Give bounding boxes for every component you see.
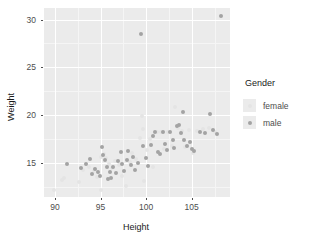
x-tick-mark [192,198,193,200]
data-point-male [133,168,137,172]
data-point-male [203,131,207,135]
grid-line-minor-horizontal [44,139,230,140]
plot-panel [44,8,230,197]
data-point-male [172,146,176,150]
x-tick-mark [146,198,147,200]
y-tick-mark [41,163,43,164]
data-point-male [114,171,118,175]
data-point-male [198,130,202,134]
data-point-male [90,172,94,176]
data-point-female [124,184,128,188]
legend-dot-icon [248,104,252,108]
y-axis-title: Weight [6,77,16,137]
scatter-plot: 15202530 9095100105 Height Weight Gender… [0,0,311,243]
data-point-female [145,148,149,152]
grid-line-minor-vertical [169,8,170,197]
data-point-female [52,188,56,192]
legend-label: female [263,101,289,111]
data-point-male [100,145,104,149]
data-point-male [129,163,133,167]
data-point-female [62,176,66,180]
data-point-male [171,138,175,142]
data-point-female [151,165,155,169]
data-point-female [120,174,124,178]
x-tick-label: 100 [139,202,153,212]
data-point-male [120,162,124,166]
data-point-male [179,131,183,135]
grid-line-major-vertical [192,8,193,197]
data-point-male [168,130,172,134]
data-point-male [139,32,143,36]
x-tick-mark [55,198,56,200]
x-tick-label: 105 [185,202,199,212]
data-point-male [98,174,102,178]
data-point-male [84,162,88,166]
legend-key-swatch [243,99,256,112]
grid-line-major-horizontal [44,115,230,116]
data-point-female [187,128,191,132]
legend-title: Gender [245,78,309,88]
grid-line-minor-horizontal [44,43,230,44]
legend-item-female[interactable]: female [243,97,309,114]
grid-line-major-vertical [146,8,147,197]
y-tick-label: 15 [0,158,36,168]
legend-items: femalemale [243,97,309,131]
data-point-female [99,188,103,192]
y-tick-mark [41,20,43,21]
data-point-male [158,152,162,156]
data-point-male [79,166,83,170]
data-point-female [87,165,91,169]
data-point-female [142,179,146,183]
data-point-male [103,158,107,162]
data-point-male [163,142,167,146]
y-tick-mark [41,115,43,116]
x-axis-title: Height [0,222,272,232]
data-point-male [182,138,186,142]
legend-item-male[interactable]: male [243,114,309,131]
legend: Gender femalemale [243,78,309,131]
data-point-male [177,123,181,127]
data-point-male [165,148,169,152]
data-point-male [122,169,126,173]
data-point-male [119,150,123,154]
data-point-male [185,144,189,148]
data-point-female [77,180,81,184]
grid-line-major-vertical [101,8,102,197]
data-point-female [140,114,144,118]
data-point-male [101,153,105,157]
data-point-male [192,149,196,153]
data-point-male [144,156,148,160]
x-tick-label: 95 [96,202,105,212]
data-point-male [151,134,155,138]
y-tick-label: 25 [0,62,36,72]
y-tick-label: 30 [0,15,36,25]
data-point-male [126,149,130,153]
data-point-male [215,132,219,136]
grid-line-minor-vertical [215,8,216,197]
data-point-male [111,165,115,169]
data-point-male [219,14,223,18]
x-tick-label: 90 [50,202,59,212]
data-point-male [208,112,212,116]
data-point-female [138,136,142,140]
data-point-male [108,170,112,174]
data-point-male [65,162,69,166]
data-point-female [173,105,177,109]
grid-line-minor-horizontal [44,91,230,92]
data-point-male [153,130,157,134]
legend-label: male [263,118,281,128]
data-point-female [141,127,145,131]
grid-line-major-vertical [55,8,56,197]
y-tick-mark [41,67,43,68]
data-point-male [146,164,150,168]
data-point-male [211,128,215,132]
x-tick-mark [101,198,102,200]
data-point-male [188,140,192,144]
data-point-male [181,110,185,114]
data-point-male [109,176,113,180]
legend-key-swatch [243,116,256,129]
data-point-male [149,143,153,147]
data-point-male [161,130,165,134]
legend-dot-icon [248,121,252,125]
data-point-male [141,144,145,148]
